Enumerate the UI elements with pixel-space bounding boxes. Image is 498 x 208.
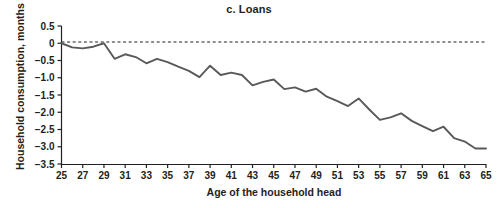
y-tick-label: 0 (49, 38, 55, 49)
x-tick-label: 51 (332, 170, 344, 181)
x-tick-label: 41 (226, 170, 238, 181)
x-tick-label: 49 (311, 170, 323, 181)
y-tick-label: −1.5 (35, 90, 55, 101)
x-tick-label: 61 (438, 170, 450, 181)
x-tick-label: 43 (247, 170, 259, 181)
x-tick-label: 33 (141, 170, 153, 181)
y-tick-label: −2.0 (35, 107, 55, 118)
x-axis-ticks: 2527293133353739414345474951535557596163… (56, 164, 492, 181)
x-tick-label: 57 (396, 170, 408, 181)
chart-figure: c. Loans Household consumption, months A… (0, 0, 498, 208)
x-tick-label: 55 (374, 170, 386, 181)
x-tick-label: 37 (183, 170, 195, 181)
x-tick-label: 35 (162, 170, 174, 181)
y-tick-label: −3.0 (35, 141, 55, 152)
x-tick-label: 65 (480, 170, 492, 181)
data-series-line (62, 43, 487, 148)
x-tick-label: 27 (77, 170, 89, 181)
x-tick-label: 39 (205, 170, 217, 181)
x-tick-label: 45 (268, 170, 280, 181)
y-axis-ticks: 0.50−0.5−1.0−1.5−2.0−2.5−3.0−3.5 (35, 21, 62, 170)
x-tick-label: 53 (353, 170, 365, 181)
x-tick-label: 59 (417, 170, 429, 181)
y-tick-label: 0.5 (41, 21, 55, 32)
x-tick-label: 63 (459, 170, 471, 181)
y-tick-label: −0.5 (35, 55, 55, 66)
x-tick-label: 31 (120, 170, 132, 181)
x-tick-label: 29 (98, 170, 110, 181)
plot-area: 0.50−0.5−1.0−1.5−2.0−2.5−3.0−3.5 2527293… (0, 0, 498, 208)
x-tick-label: 47 (289, 170, 301, 181)
x-tick-label: 25 (56, 170, 68, 181)
y-tick-label: −2.5 (35, 124, 55, 135)
y-tick-label: −1.0 (35, 72, 55, 83)
y-tick-label: −3.5 (35, 159, 55, 170)
